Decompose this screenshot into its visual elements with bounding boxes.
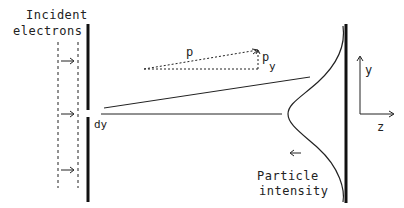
diffraction-diagram: Incident electrons dy p p y P — [0, 0, 404, 208]
incident-label-line2: electrons — [13, 24, 83, 38]
incident-arrow-icon — [61, 58, 74, 64]
axis-z-label: z — [377, 120, 385, 134]
slit-width-label: dy — [94, 118, 108, 131]
intensity-label-line1: Particle — [257, 169, 319, 183]
momentum-y-subscript: y — [269, 60, 276, 73]
left-arrow-icon — [290, 150, 301, 156]
intensity-label-line2: intensity — [259, 184, 329, 198]
incident-arrow-icon — [61, 167, 74, 173]
axes-icon — [357, 56, 394, 117]
diffracted-ray — [104, 77, 310, 108]
incident-arrow-icon — [61, 111, 74, 117]
incident-label-line1: Incident — [26, 8, 88, 22]
momentum-triangle — [144, 49, 260, 69]
axis-y-label: y — [365, 63, 373, 77]
momentum-label: p — [186, 45, 194, 59]
